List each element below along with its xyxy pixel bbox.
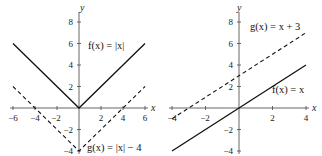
left-xtick-label: 4 bbox=[121, 113, 126, 123]
right-ytick-label: 6 bbox=[229, 39, 234, 49]
figure: −6 −4 −2 2 4 6 8 6 4 2 −2 −4 y x f(x) = … bbox=[0, 0, 322, 156]
right-xtick-label: −2 bbox=[200, 113, 210, 123]
right-ytick-label: −4 bbox=[223, 146, 233, 156]
left-ytick-label: 8 bbox=[69, 17, 74, 27]
right-xtick-label: 4 bbox=[304, 113, 309, 123]
right-ytick-label: −2 bbox=[223, 125, 233, 135]
left-ytick-label: −2 bbox=[63, 125, 73, 135]
right-y-axis-label: y bbox=[236, 2, 242, 13]
left-x-axis-label: x bbox=[150, 102, 156, 113]
left-f-label: f(x) = |x| bbox=[88, 40, 124, 52]
left-ytick-label: 6 bbox=[69, 39, 74, 49]
right-ytick-label: 4 bbox=[229, 60, 234, 70]
right-ytick-label: 2 bbox=[229, 82, 234, 92]
right-chart: −4 −2 2 4 8 6 4 2 −2 −4 y x g(x) = x + 3… bbox=[167, 2, 317, 156]
left-xtick-label: 2 bbox=[99, 113, 104, 123]
right-xtick-label: 2 bbox=[270, 113, 275, 123]
right-f-label: f(x) = x bbox=[272, 84, 305, 96]
right-x-axis-label: x bbox=[311, 102, 317, 113]
left-ytick-label: 4 bbox=[69, 60, 74, 70]
left-ytick-label: 2 bbox=[69, 82, 74, 92]
right-g-label: g(x) = x + 3 bbox=[250, 21, 300, 33]
left-ytick-label: −4 bbox=[63, 146, 73, 156]
left-xtick-label: 6 bbox=[143, 113, 148, 123]
left-xtick-label: −4 bbox=[30, 113, 40, 123]
left-y-axis-label: y bbox=[79, 2, 85, 13]
left-xtick-label: −2 bbox=[51, 113, 61, 123]
left-chart: −6 −4 −2 2 4 6 8 6 4 2 −2 −4 y x f(x) = … bbox=[8, 2, 156, 156]
left-g-label: g(x) = |x| − 4 bbox=[87, 142, 142, 154]
left-xtick-label: −6 bbox=[8, 113, 18, 123]
right-ytick-label: 8 bbox=[229, 17, 234, 27]
